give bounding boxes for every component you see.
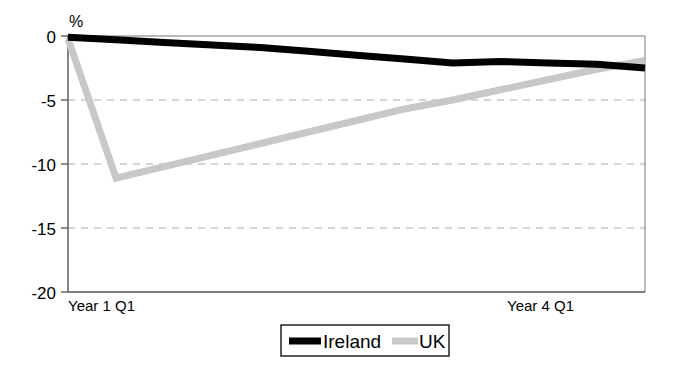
y-axis-label-minus5: -5 [41,92,56,111]
x-axis-label-start: Year 1 Q1 [68,297,135,314]
y-axis-ticks [61,36,68,292]
legend-label-uk: UK [419,331,446,352]
x-axis-label-end: Year 4 Q1 [507,297,574,314]
y-axis-label-minus20: -20 [31,284,56,303]
y-axis-label-0: 0 [47,28,56,47]
chart-legend: Ireland UK [281,325,449,356]
y-axis-unit-label: % [69,13,83,30]
line-chart: 0 -5 -10 -15 -20 % Year 1 Q1 Year 4 Q1 I… [0,0,691,388]
chart-container: 0 -5 -10 -15 -20 % Year 1 Q1 Year 4 Q1 I… [0,0,691,388]
y-axis-label-minus10: -10 [31,156,56,175]
y-axis-label-minus15: -15 [31,220,56,239]
legend-label-ireland: Ireland [323,331,381,352]
